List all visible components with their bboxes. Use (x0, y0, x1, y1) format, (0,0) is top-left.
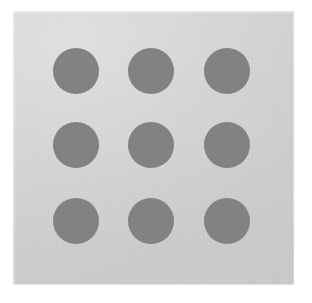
grid-dot-middle-center (128, 122, 174, 168)
grid-dot-bottom-right (204, 198, 250, 244)
dot-grid (13, 11, 294, 285)
grid-dot-top-left (53, 48, 99, 94)
grid-dot-top-center (128, 48, 174, 94)
grid-dot-middle-left (53, 122, 99, 168)
grid-dot-bottom-left (53, 198, 99, 244)
figure-root (0, 0, 312, 303)
figure-panel (13, 11, 294, 285)
grid-dot-bottom-center (128, 198, 174, 244)
grid-dot-top-right (204, 48, 250, 94)
grid-dot-middle-right (204, 122, 250, 168)
